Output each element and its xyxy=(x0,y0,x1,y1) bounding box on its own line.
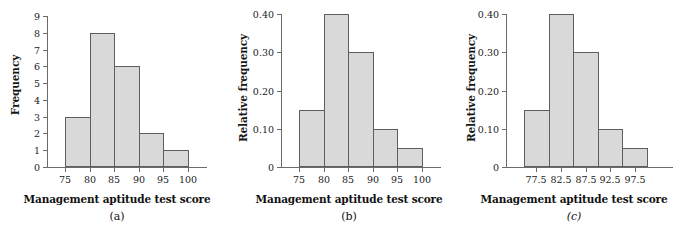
y-axis-tick-label: 5 xyxy=(10,79,40,88)
y-axis-tick-label: 0 xyxy=(244,163,274,172)
y-axis-tick-label: 2 xyxy=(10,129,40,138)
histogram-bar xyxy=(524,110,550,167)
y-axis-tick-label: 3 xyxy=(10,113,40,122)
y-axis-tick xyxy=(277,52,281,53)
x-axis-title-a: Management aptitude test score xyxy=(22,193,212,205)
x-axis-tick xyxy=(610,168,611,172)
y-axis-tick xyxy=(43,167,47,168)
histogram-bar xyxy=(348,52,374,167)
histogram-bar xyxy=(90,33,116,167)
histogram-bar xyxy=(324,14,350,167)
y-axis-tick-label: 0 xyxy=(469,163,499,172)
histogram-bar xyxy=(65,117,91,167)
y-axis-tick xyxy=(277,129,281,130)
y-axis-tick xyxy=(43,133,47,134)
x-axis-tick xyxy=(422,168,423,172)
y-axis-tick xyxy=(502,14,506,15)
x-axis-tick xyxy=(90,168,91,172)
y-axis-tick xyxy=(43,117,47,118)
y-axis-tick-label: 0.20 xyxy=(244,87,274,96)
plot-area-b: 00.100.200.300.407580859095100 xyxy=(281,14,441,167)
y-axis-tick-label: 0.40 xyxy=(469,10,499,19)
x-axis-tick xyxy=(299,168,300,172)
y-axis-line xyxy=(506,14,507,167)
y-axis-tick-label: 0.20 xyxy=(469,87,499,96)
histogram-bar xyxy=(573,52,599,167)
x-axis-tick xyxy=(163,168,164,172)
panel-caption-a: (a) xyxy=(22,210,212,223)
histogram-panel-b: Relative frequency 00.100.200.300.407580… xyxy=(228,0,456,232)
y-axis-tick-label: 0.10 xyxy=(469,125,499,134)
x-axis-tick xyxy=(65,168,66,172)
x-axis-title-c: Management aptitude test score xyxy=(479,193,669,205)
histogram-bar xyxy=(163,150,189,167)
plot-area-a: 01234567897580859095100 xyxy=(47,16,207,167)
x-axis-tick xyxy=(188,168,189,172)
x-axis-tick xyxy=(139,168,140,172)
y-axis-tick xyxy=(43,50,47,51)
y-axis-tick xyxy=(43,66,47,67)
x-axis-tick-label: 97.5 xyxy=(615,175,655,184)
y-axis-tick-label: 0.10 xyxy=(244,125,274,134)
histogram-bar xyxy=(373,129,399,167)
y-axis-tick xyxy=(502,167,506,168)
y-axis-line xyxy=(281,14,282,167)
x-axis-tick xyxy=(586,168,587,172)
y-axis-tick-label: 4 xyxy=(10,96,40,105)
x-axis-tick xyxy=(348,168,349,172)
y-axis-tick-label: 6 xyxy=(10,62,40,71)
histogram-bar xyxy=(549,14,575,167)
x-axis-title-b: Management aptitude test score xyxy=(254,193,444,205)
x-axis-line xyxy=(506,167,673,168)
x-axis-tick xyxy=(561,168,562,172)
y-axis-tick xyxy=(43,16,47,17)
y-axis-tick xyxy=(502,129,506,130)
panel-caption-c: (c) xyxy=(479,210,669,223)
histogram-bar xyxy=(622,148,648,167)
y-axis-tick-label: 1 xyxy=(10,146,40,155)
y-axis-tick-label: 9 xyxy=(10,12,40,21)
y-axis-tick xyxy=(277,167,281,168)
y-axis-tick-label: 0.30 xyxy=(469,48,499,57)
histogram-panel-a: Frequency 01234567897580859095100 Manage… xyxy=(0,0,228,232)
histogram-bar xyxy=(397,148,423,167)
y-axis-tick xyxy=(502,52,506,53)
histogram-bar xyxy=(139,133,165,167)
y-axis-tick-label: 0.30 xyxy=(244,48,274,57)
x-axis-tick xyxy=(536,168,537,172)
x-axis-tick xyxy=(635,168,636,172)
x-axis-tick xyxy=(373,168,374,172)
y-axis-tick xyxy=(43,150,47,151)
y-axis-tick xyxy=(277,14,281,15)
y-axis-tick xyxy=(277,91,281,92)
x-axis-line xyxy=(47,167,207,168)
histogram-panel-c: Relative frequency 00.100.200.300.4077.5… xyxy=(456,0,684,232)
y-axis-tick xyxy=(43,33,47,34)
y-axis-tick-label: 0 xyxy=(10,163,40,172)
y-axis-tick-label: 0.40 xyxy=(244,10,274,19)
x-axis-tick xyxy=(397,168,398,172)
histogram-bar xyxy=(299,110,325,167)
y-axis-tick-label: 8 xyxy=(10,29,40,38)
plot-area-c: 00.100.200.300.4077.582.587.592.597.5 xyxy=(506,14,673,167)
y-axis-tick-label: 7 xyxy=(10,46,40,55)
x-axis-tick-label: 100 xyxy=(402,175,442,184)
y-axis-line xyxy=(47,16,48,167)
x-axis-line xyxy=(281,167,441,168)
x-axis-tick xyxy=(114,168,115,172)
histogram-bar xyxy=(598,129,624,167)
x-axis-tick xyxy=(324,168,325,172)
y-axis-tick xyxy=(43,83,47,84)
x-axis-tick-label: 100 xyxy=(168,175,208,184)
histogram-bar xyxy=(114,66,140,167)
y-axis-tick xyxy=(502,91,506,92)
histogram-figure-row: Frequency 01234567897580859095100 Manage… xyxy=(0,0,684,232)
y-axis-tick xyxy=(43,100,47,101)
panel-caption-b: (b) xyxy=(254,210,444,223)
